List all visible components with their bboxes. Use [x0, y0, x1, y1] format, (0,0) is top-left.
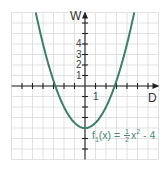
y-tick-label-4: 4	[76, 39, 82, 49]
function-label: f1(x) = 12x2 - 4	[92, 128, 155, 143]
y-axis-label: W	[70, 10, 81, 22]
x-tick-label-1: 1	[93, 92, 99, 102]
chart-canvas	[0, 0, 167, 169]
y-tick-label-1: 1	[76, 71, 82, 81]
fraction: 12	[124, 128, 130, 143]
y-tick-label-2: 2	[76, 60, 82, 70]
x-axis-label: D	[148, 92, 157, 104]
